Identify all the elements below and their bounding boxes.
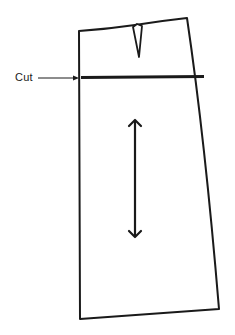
waist-dart [133,24,142,57]
skirt-outline [79,18,219,319]
skirt-pattern-diagram [0,0,235,335]
cut-label: Cut [15,71,33,83]
horizontal-cut-line [81,77,204,78]
cut-pointer-arrowhead-icon [73,76,79,81]
